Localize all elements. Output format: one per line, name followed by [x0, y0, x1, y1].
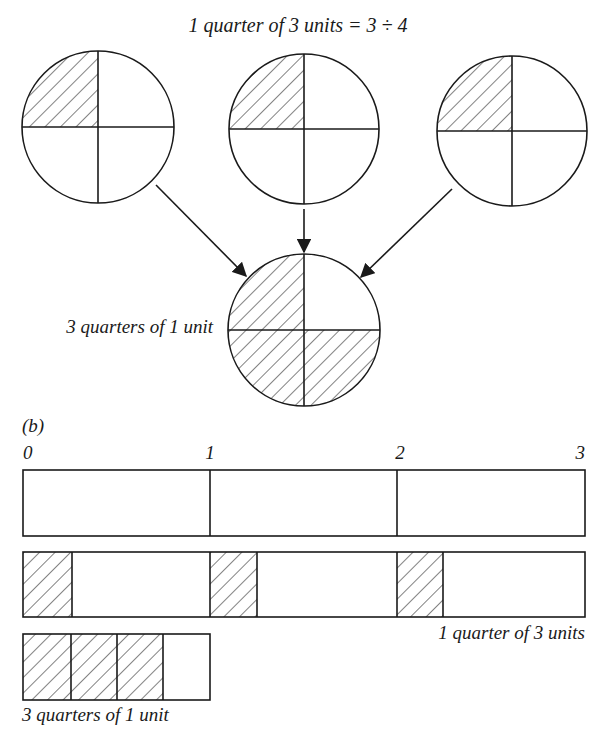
shaded-segment-3 [397, 552, 443, 617]
part-a-title: 1 quarter of 3 units = 3 ÷ 4 [189, 14, 408, 37]
arrow-left [156, 185, 246, 276]
units-bar-outline [23, 470, 585, 536]
shaded-quarter-top-left [22, 51, 98, 127]
tick-label-2: 2 [395, 442, 405, 463]
shaded-quarter-bottom-left [228, 330, 304, 406]
result-bar-label: 3 quarters of 1 unit [21, 704, 169, 725]
result-circle [228, 254, 380, 406]
shaded-segment-1 [23, 552, 72, 617]
part-b-label: (b) [22, 415, 44, 437]
source-circle-1 [22, 51, 174, 203]
units-bar [23, 470, 585, 536]
tick-label-1: 1 [205, 442, 215, 463]
tick-label-3: 3 [575, 442, 586, 463]
shaded-quarter-bottom-right [304, 330, 380, 406]
source-circle-2 [229, 54, 379, 204]
shaded-quarter-top-left [228, 254, 304, 330]
source-circle-3 [437, 56, 587, 206]
arrow-right [361, 189, 452, 277]
quarters-bar-outline [23, 552, 585, 617]
shaded-quarter-top-left [437, 56, 512, 131]
shaded-segment-2 [210, 552, 257, 617]
result-circle-label: 3 quarters of 1 unit [65, 316, 213, 337]
quarters-bar [23, 552, 585, 617]
quarters-bar-label: 1 quarter of 3 units [438, 622, 585, 643]
shaded-quarter-top-left [229, 54, 304, 129]
shaded-three-quarters [23, 634, 163, 700]
result-bar [23, 634, 210, 700]
tick-label-0: 0 [23, 442, 33, 463]
fraction-diagram: 1 quarter of 3 units = 3 ÷ 4 3 quarters … [0, 0, 597, 741]
